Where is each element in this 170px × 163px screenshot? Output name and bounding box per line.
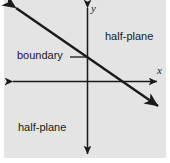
half-plane-label-upper: half-plane — [105, 31, 153, 42]
x-axis-label: x — [157, 65, 162, 76]
diagram-graphics — [0, 0, 170, 163]
half-plane-figure: y x half-plane half-plane boundary — [0, 0, 170, 163]
boundary-label: boundary — [17, 50, 63, 61]
half-plane-label-lower: half-plane — [18, 122, 66, 133]
y-axis-label: y — [91, 3, 96, 14]
